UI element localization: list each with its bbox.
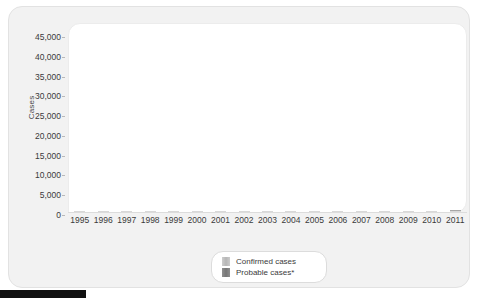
- x-axis-tick-2005: 2005: [303, 215, 325, 225]
- y-axis-tick-30000: 30,000: [35, 91, 61, 101]
- x-axis-tick-labels: 1995199619971998199920002001200220032004…: [68, 215, 467, 225]
- y-axis-tick-20000: 20,000: [35, 131, 61, 141]
- legend-label: Probable cases*: [236, 268, 294, 277]
- x-axis-tick-2008: 2008: [374, 215, 396, 225]
- bar-group-1998: [139, 34, 161, 212]
- y-axis-tick-mark: [62, 57, 65, 58]
- chart-legend: Confirmed casesProbable cases*: [211, 251, 327, 283]
- bar-group-1996: [92, 34, 114, 212]
- x-axis-tick-2009: 2009: [397, 215, 419, 225]
- y-axis-tick-mark: [62, 77, 65, 78]
- bar-group-2006: [327, 34, 349, 212]
- legend-swatch-confirmed: [222, 257, 230, 266]
- x-axis-tick-2001: 2001: [209, 215, 231, 225]
- legend-item-confirmed: Confirmed cases: [222, 256, 318, 267]
- y-axis-tick-mark: [62, 37, 65, 38]
- y-axis-tick-40000: 40,000: [35, 52, 61, 62]
- bar-group-1995: [69, 34, 91, 212]
- x-axis-tick-2003: 2003: [256, 215, 278, 225]
- x-axis-tick-2000: 2000: [186, 215, 208, 225]
- y-axis-tick-35000: 35,000: [35, 72, 61, 82]
- y-axis-tick-labels: 45,00040,00035,00030,00025,00020,00015,0…: [17, 26, 65, 216]
- bar-group-2009: [397, 34, 419, 212]
- x-axis-tick-2010: 2010: [421, 215, 443, 225]
- bar-group-1997: [116, 34, 138, 212]
- bar-group-2007: [350, 34, 372, 212]
- bar-group-2001: [209, 34, 231, 212]
- y-axis-tick-mark: [62, 175, 65, 176]
- x-axis-tick-2002: 2002: [233, 215, 255, 225]
- x-axis-tick-2006: 2006: [327, 215, 349, 225]
- chart-figure-panel: Cases 45,00040,00035,00030,00025,00020,0…: [8, 6, 470, 288]
- y-axis-tick-mark: [62, 215, 65, 216]
- x-axis-tick-2011: 2011: [444, 215, 466, 225]
- bar-group-2010: [421, 34, 443, 212]
- x-axis-tick-1997: 1997: [116, 215, 138, 225]
- bar-group-2000: [186, 34, 208, 212]
- y-axis-tick-15000: 15,000: [35, 151, 61, 161]
- bar-group-2002: [233, 34, 255, 212]
- y-axis-tick-0: 0: [56, 210, 61, 220]
- x-axis-tick-1995: 1995: [69, 215, 91, 225]
- bar-group-2005: [303, 34, 325, 212]
- y-axis-tick-mark: [62, 96, 65, 97]
- x-axis-tick-1996: 1996: [92, 215, 114, 225]
- bar-series-group: [68, 34, 467, 212]
- y-axis-tick-5000: 5,000: [40, 190, 61, 200]
- y-axis-tick-mark: [62, 136, 65, 137]
- y-axis-tick-10000: 10,000: [35, 170, 61, 180]
- bar-group-1999: [163, 34, 185, 212]
- legend-item-probable: Probable cases*: [222, 267, 318, 278]
- y-axis-tick-mark: [62, 195, 65, 196]
- bar-group-2003: [256, 34, 278, 212]
- y-axis-tick-45000: 45,000: [35, 32, 61, 42]
- legend-label: Confirmed cases: [236, 257, 296, 266]
- bottom-black-strip: [0, 290, 86, 298]
- x-axis-tick-1999: 1999: [163, 215, 185, 225]
- y-axis-tick-mark: [62, 156, 65, 157]
- legend-swatch-probable: [222, 268, 230, 277]
- y-axis-tick-25000: 25,000: [35, 111, 61, 121]
- x-axis-tick-1998: 1998: [139, 215, 161, 225]
- chart-plot-area: [68, 23, 467, 213]
- x-axis-baseline: [68, 212, 467, 213]
- x-axis-tick-2007: 2007: [350, 215, 372, 225]
- x-axis-tick-2004: 2004: [280, 215, 302, 225]
- y-axis-tick-mark: [62, 116, 65, 117]
- bar-group-2011: [444, 34, 466, 212]
- bar-group-2008: [374, 34, 396, 212]
- bar-group-2004: [280, 34, 302, 212]
